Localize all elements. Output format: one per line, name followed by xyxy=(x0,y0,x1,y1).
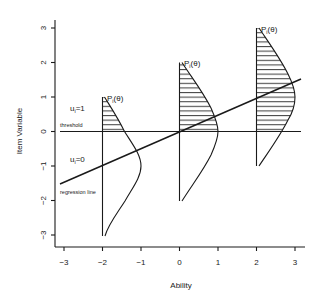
regression-line-label: regression line xyxy=(60,189,96,195)
y-tick-label: 2 xyxy=(39,60,48,65)
shaded-regions xyxy=(103,28,296,132)
shaded-region-theta-2 xyxy=(257,28,296,132)
y-axis-title: Item Variable xyxy=(15,107,24,154)
x-tick-label: 1 xyxy=(216,258,221,267)
y-tick-label: 0 xyxy=(39,129,48,134)
u1-label: ui=1 xyxy=(70,104,85,114)
u0-label: ui=0 xyxy=(70,155,85,165)
x-axis xyxy=(55,247,305,251)
y-axis xyxy=(51,20,55,247)
y-tick-label: 3 xyxy=(39,25,48,30)
x-tick-label: 2 xyxy=(254,258,259,267)
y-tick-label: −3 xyxy=(39,230,48,240)
x-axis-title: Ability xyxy=(170,281,191,290)
y-tick-label: −1 xyxy=(39,161,48,171)
x-tick-label: −3 xyxy=(59,258,69,267)
x-tick-label: 0 xyxy=(177,258,182,267)
y-tick-label: −2 xyxy=(39,195,48,205)
x-tick-label: −1 xyxy=(136,258,146,267)
threshold-label: threshold xyxy=(60,122,83,128)
x-tick-label: −2 xyxy=(98,258,108,267)
item-response-figure: 3 2 1 0 −1 −2 −3 −3 −2 −1 0 1 2 3 Abilit… xyxy=(0,0,319,303)
y-tick-labels: 3 2 1 0 −1 −2 −3 xyxy=(39,25,48,239)
p-label-theta-minus2: Pi(θ) xyxy=(107,94,124,104)
x-tick-labels: −3 −2 −1 0 1 2 3 xyxy=(59,258,297,267)
p-label-theta-2: Pi(θ) xyxy=(261,25,278,35)
y-tick-label: 1 xyxy=(39,94,48,99)
p-label-theta-0: Pi(θ) xyxy=(184,59,201,69)
shaded-region-theta-0 xyxy=(180,63,219,132)
x-tick-label: 3 xyxy=(293,258,298,267)
